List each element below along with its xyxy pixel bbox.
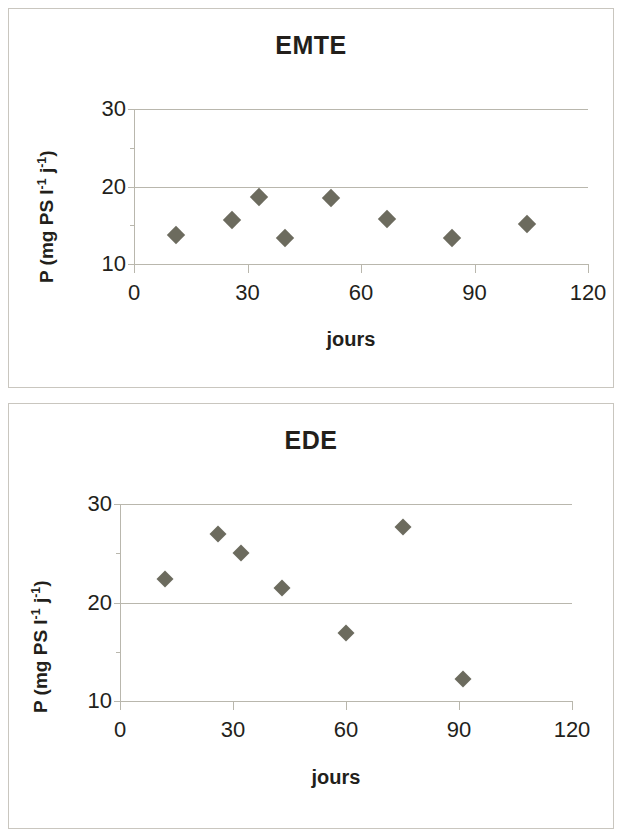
chart-panel-ede: EDE P (mg PS l-1 j-1) jours 102030030609… [8,403,614,829]
gridline-y-20 [120,603,572,604]
x-tick-label-60: 60 [349,280,373,306]
gridline-y-30 [134,109,588,110]
chart-panel-emte: EMTE P (mg PS l-1 j-1) jours 10203003060… [8,8,614,388]
x-axis-tick-90 [459,701,460,710]
x-axis-title-ede: jours [312,766,361,789]
data-point-marker [232,545,249,562]
x-tick-label-60: 60 [334,717,358,743]
x-axis-title-emte: jours [327,328,376,351]
x-axis-tick-60 [361,264,362,273]
x-axis-tick-0 [134,264,135,273]
data-point-marker [276,229,294,247]
y-tick-label-10: 10 [70,688,112,714]
data-point-marker [250,188,268,206]
y-axis-line [134,109,135,264]
y-tick-label-20: 20 [84,174,126,200]
data-point-marker [166,226,184,244]
x-axis-tick-30 [233,701,234,710]
plot-area-emte [134,109,588,264]
x-axis-tick-0 [120,701,121,710]
y-tick-label-30: 30 [84,96,126,122]
data-point-marker [157,570,174,587]
y-axis-title-emte: P (mg PS l-1 j-1) [35,151,58,283]
x-tick-label-0: 0 [128,280,140,306]
y-tick-label-30: 30 [70,491,112,517]
x-tick-label-120: 120 [554,717,591,743]
x-tick-label-90: 90 [447,717,471,743]
data-point-marker [394,518,411,535]
y-tick-label-20: 20 [70,590,112,616]
x-axis-tick-30 [248,264,249,273]
x-tick-label-90: 90 [462,280,486,306]
chart-title-ede: EDE [9,426,613,455]
x-axis-tick-90 [475,264,476,273]
x-axis-tick-120 [588,264,589,273]
gridline-y-20 [134,187,588,188]
data-point-marker [443,228,461,246]
data-point-marker [454,671,471,688]
data-point-marker [378,210,396,228]
y-tick-label-10: 10 [84,251,126,277]
data-point-marker [322,189,340,207]
x-tick-label-30: 30 [221,717,245,743]
y-axis-line [120,504,121,701]
x-tick-label-120: 120 [570,280,607,306]
plot-area-ede [120,504,572,701]
x-tick-label-0: 0 [114,717,126,743]
x-axis-tick-120 [572,701,573,710]
data-point-marker [273,579,290,596]
x-axis-tick-60 [346,701,347,710]
data-point-marker [338,625,355,642]
data-point-marker [223,211,241,229]
data-point-marker [209,525,226,542]
gridline-y-30 [120,504,572,505]
x-tick-label-30: 30 [235,280,259,306]
chart-title-emte: EMTE [9,31,613,60]
data-point-marker [518,214,536,232]
y-axis-title-ede: P (mg PS l-1 j-1) [29,581,52,713]
